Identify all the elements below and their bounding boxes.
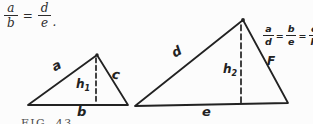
fraction-denominator: d <box>263 35 274 47</box>
large-triangle-side-f-label: F <box>267 55 275 68</box>
small-triangle-apex-dot <box>95 53 98 56</box>
equals-sign: = <box>276 30 284 41</box>
fraction-a-over-d: a d <box>263 24 274 47</box>
figure-caption: FIG. 43 <box>21 117 73 124</box>
fraction-denominator: e <box>286 35 296 47</box>
figure-page: a b = d e . a c h1 b d F h2 e a d <box>0 0 313 124</box>
handwritten-equation: a d = b e = c F <box>263 24 313 47</box>
small-triangle-base-label: b <box>77 105 86 118</box>
equals-sign: = <box>299 30 307 41</box>
fraction-numerator: a <box>263 24 273 35</box>
small-triangle-height-label: h1 <box>76 78 90 93</box>
fraction-numerator: c <box>309 24 313 35</box>
height-letter: h <box>223 62 232 76</box>
large-triangle-height-label: h2 <box>223 63 237 78</box>
fraction-c-over-f: c F <box>309 24 313 47</box>
height-subscript: 1 <box>85 84 91 93</box>
fraction-numerator: b <box>286 24 297 35</box>
height-letter: h <box>76 77 85 91</box>
fraction-denominator: F <box>309 35 313 47</box>
height-subscript: 2 <box>232 69 238 78</box>
large-triangle-apex-dot <box>241 18 245 22</box>
fraction-b-over-e: b e <box>286 24 297 47</box>
large-triangle-base-label: e <box>202 105 211 118</box>
